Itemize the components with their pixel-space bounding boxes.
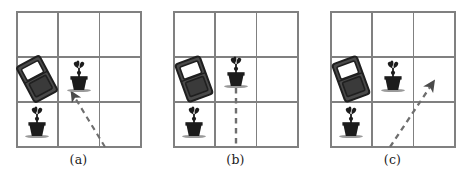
object-plant-b-1 xyxy=(224,56,248,88)
panel-a: (a) xyxy=(0,0,157,179)
object-plant-c-2 xyxy=(339,106,363,138)
grid-a-svg xyxy=(16,11,142,148)
panel-a-caption: (a) xyxy=(0,152,157,167)
panel-c: (c) xyxy=(314,0,471,179)
object-plant-c-1 xyxy=(381,60,405,92)
panel-c-caption: (c) xyxy=(314,152,471,167)
object-plant-a-2 xyxy=(25,106,49,138)
grid-c xyxy=(330,11,456,148)
panel-b: (b) xyxy=(157,0,314,179)
panel-b-caption: (b) xyxy=(157,152,314,167)
object-brick-c xyxy=(331,56,369,102)
object-brick-b xyxy=(174,56,212,102)
object-plant-b-2 xyxy=(182,106,206,138)
grid-b xyxy=(173,11,299,148)
grid-b-svg xyxy=(173,11,299,148)
object-plant-a-1 xyxy=(67,60,91,92)
figure-panels: (a) xyxy=(0,0,471,179)
grid-a xyxy=(16,11,142,148)
object-brick-a xyxy=(16,55,58,103)
grid-c-svg xyxy=(330,11,456,148)
